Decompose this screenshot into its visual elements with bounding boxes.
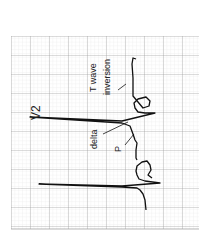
lead-label-v2: V2 xyxy=(30,105,42,120)
annotation-p-wave: P xyxy=(114,146,123,152)
annotation-inversion: inversion xyxy=(103,59,112,95)
annotation-delta: delta xyxy=(90,129,99,149)
ecg-strip xyxy=(0,0,199,243)
annotation-t-wave: T wave xyxy=(89,63,98,92)
